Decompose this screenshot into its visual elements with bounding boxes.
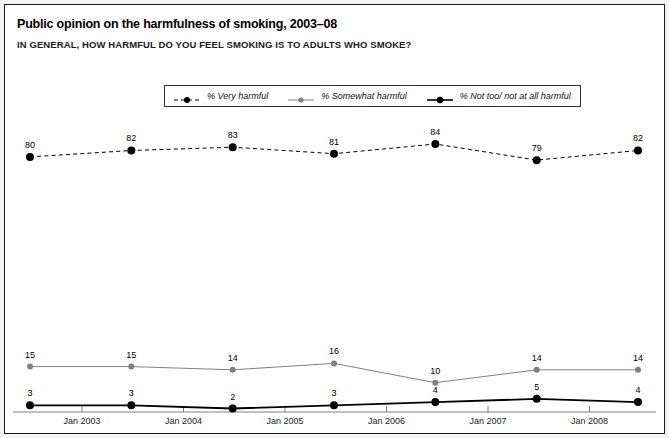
data-point-label: 10 bbox=[430, 366, 440, 376]
data-point-label: 14 bbox=[633, 353, 643, 363]
data-point-label: 2 bbox=[230, 392, 235, 402]
data-point-label: 81 bbox=[329, 137, 339, 147]
data-point-label: 80 bbox=[25, 140, 35, 150]
data-point-label: 16 bbox=[329, 346, 339, 356]
data-point-label: 82 bbox=[633, 133, 643, 143]
plot-svg bbox=[5, 5, 665, 433]
data-point-label: 83 bbox=[228, 130, 238, 140]
figure-background: Public opinion on the harmfulness of smo… bbox=[0, 0, 669, 438]
x-axis-tick-label: Jan 2007 bbox=[469, 416, 506, 426]
data-point-label: 4 bbox=[635, 385, 640, 395]
x-axis-tick-label: Jan 2005 bbox=[266, 416, 303, 426]
data-point-label: 5 bbox=[534, 382, 539, 392]
data-point-label: 15 bbox=[126, 350, 136, 360]
data-point-label: 3 bbox=[129, 388, 134, 398]
data-point-label: 4 bbox=[433, 385, 438, 395]
plot-area: Jan 2003Jan 2004Jan 2005Jan 2006Jan 2007… bbox=[5, 5, 665, 433]
x-axis-tick-label: Jan 2003 bbox=[63, 416, 100, 426]
x-axis-tick-label: Jan 2004 bbox=[165, 416, 202, 426]
data-point-label: 79 bbox=[532, 143, 542, 153]
data-point-label: 82 bbox=[126, 133, 136, 143]
data-point-label: 84 bbox=[430, 127, 440, 137]
data-point-label: 3 bbox=[27, 388, 32, 398]
data-point-label: 15 bbox=[25, 350, 35, 360]
data-point-label: 3 bbox=[331, 388, 336, 398]
data-point-label: 14 bbox=[228, 353, 238, 363]
x-axis-tick-label: Jan 2008 bbox=[571, 416, 608, 426]
x-axis-tick-label: Jan 2006 bbox=[368, 416, 405, 426]
chart-frame: Public opinion on the harmfulness of smo… bbox=[4, 4, 665, 434]
data-point-label: 14 bbox=[532, 353, 542, 363]
